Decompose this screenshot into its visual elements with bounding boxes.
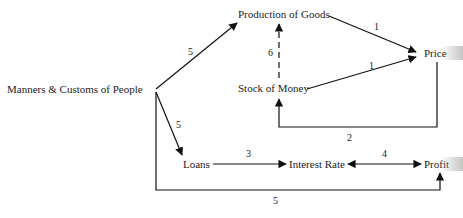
edge-fade-overlay bbox=[441, 157, 463, 171]
edge-label: 3 bbox=[246, 148, 251, 159]
edge-label: 5 bbox=[273, 195, 278, 206]
edge-loans-interest: 3 bbox=[213, 148, 286, 164]
node-production-of-goods: Production of Goods bbox=[238, 8, 330, 20]
edge-fade-overlay bbox=[441, 46, 463, 60]
edge-stock-price: 1 bbox=[307, 57, 416, 89]
edge-interest-profit: 4 bbox=[348, 148, 421, 164]
node-manners-customs: Manners & Customs of People bbox=[7, 83, 143, 95]
edge-label: 6 bbox=[268, 47, 273, 58]
edge-label: 4 bbox=[382, 148, 387, 159]
edge-manners-production: 5 bbox=[156, 23, 237, 89]
edge-production-price: 1 bbox=[329, 16, 416, 52]
edge-label: 2 bbox=[347, 132, 352, 143]
node-interest-rate: Interest Rate bbox=[289, 158, 345, 170]
edge-label: 5 bbox=[188, 46, 193, 57]
edge-manners-loans: 5 bbox=[156, 92, 182, 155]
edge-stock-production: 6 bbox=[268, 24, 279, 78]
edge-manners-profit: 5 bbox=[156, 92, 440, 206]
causal-diagram: 5 5 5 1 1 6 2 3 4 Manners & Customs of P… bbox=[0, 0, 463, 218]
node-stock-of-money: Stock of Money bbox=[238, 82, 309, 94]
edge-label: 1 bbox=[374, 21, 379, 32]
node-loans: Loans bbox=[183, 158, 210, 170]
edge-label: 5 bbox=[176, 119, 181, 130]
edge-label: 1 bbox=[369, 60, 374, 71]
